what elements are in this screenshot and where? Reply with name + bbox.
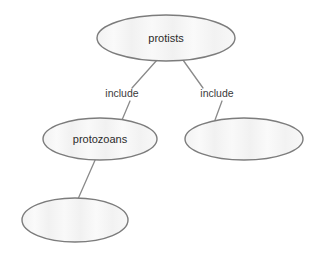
connector-protists-to-protozoans-lower [122, 101, 130, 120]
concept-map-diagram: protists protozoans include include [0, 0, 322, 259]
edge-label-group: include include [105, 87, 233, 99]
edge-label-include-left: include [105, 87, 138, 99]
node-protozoans-label: protozoans [73, 133, 128, 145]
node-blank-bottom-shape[interactable] [22, 198, 128, 242]
node-protozoans[interactable]: protozoans [43, 118, 157, 160]
node-blank-right[interactable] [185, 118, 303, 160]
connector-protists-to-protozoans-upper [132, 60, 157, 88]
connector-protists-to-blank-right-lower [215, 101, 222, 120]
edge-label-include-right: include [200, 87, 233, 99]
diagram-canvas: protists protozoans include include [0, 0, 322, 259]
connector-protozoans-to-blank-bottom [78, 158, 96, 199]
node-protists-label: protists [148, 32, 184, 44]
connector-protists-to-blank-right-upper [183, 60, 203, 88]
node-blank-right-shape[interactable] [185, 118, 303, 160]
node-protists[interactable]: protists [97, 15, 235, 61]
node-blank-bottom[interactable] [22, 198, 128, 242]
